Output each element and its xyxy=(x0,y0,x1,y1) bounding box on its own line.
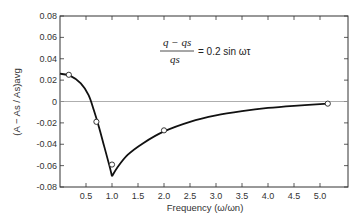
y-tick-label: -0.08 xyxy=(36,182,57,192)
y-axis-title: (A − As / As)avg xyxy=(11,68,22,135)
x-axis-title: Frequency (ω/ωn) xyxy=(167,202,244,213)
x-tick-label: 3.0 xyxy=(210,191,223,201)
x-tick-label: 4.5 xyxy=(288,191,301,201)
data-point-marker xyxy=(325,101,330,106)
x-tick-label: 3.5 xyxy=(236,191,249,201)
y-tick-label: 0.04 xyxy=(39,54,57,64)
x-axis-ticks: 0.51.01.52.02.53.03.54.04.55.0 xyxy=(80,16,327,201)
equation-annotation: q − qs qs = 0.2 sin ωτ xyxy=(160,36,251,65)
y-tick-label: 0.06 xyxy=(39,32,57,42)
y-tick-label: -0.02 xyxy=(36,118,57,128)
y-tick-label: -0.04 xyxy=(36,139,57,149)
equation-numerator: q − qs xyxy=(163,36,191,48)
x-tick-label: 0.5 xyxy=(80,191,93,201)
data-point-marker xyxy=(66,72,71,77)
fitted-curve xyxy=(60,74,328,177)
data-point-marker xyxy=(94,119,99,124)
chart: 0.080.060.040.020-0.02-0.04-0.06-0.08 0.… xyxy=(0,0,359,222)
x-tick-label: 1.5 xyxy=(132,191,145,201)
y-tick-label: 0 xyxy=(52,97,57,107)
x-tick-label: 2.0 xyxy=(158,191,171,201)
y-tick-label: -0.06 xyxy=(36,161,57,171)
y-tick-label: 0.08 xyxy=(39,11,57,21)
data-point-marker xyxy=(109,162,114,167)
x-tick-label: 2.5 xyxy=(184,191,197,201)
x-tick-label: 4.0 xyxy=(262,191,275,201)
equation-denominator: qs xyxy=(170,53,180,65)
y-tick-label: 0.02 xyxy=(39,75,57,85)
equation-rhs: = 0.2 sin ωτ xyxy=(198,46,251,57)
x-tick-label: 1.0 xyxy=(106,191,119,201)
x-tick-label: 5.0 xyxy=(314,191,327,201)
data-point-marker xyxy=(161,128,166,133)
